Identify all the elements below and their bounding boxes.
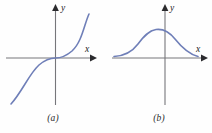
figure-panel-b: y x (b) xyxy=(106,0,212,133)
x-axis-label-b: x xyxy=(196,45,200,55)
graph-b-canvas xyxy=(106,0,212,112)
graph-a-canvas xyxy=(0,0,106,112)
x-axis-arrowhead-a xyxy=(90,55,97,62)
x-axis-arrowhead-b xyxy=(201,55,208,62)
x-axis-label-a: x xyxy=(85,45,89,55)
y-axis-label-b: y xyxy=(170,4,174,14)
y-axis-arrowhead-b xyxy=(162,4,169,11)
panel-caption-b: (b) xyxy=(106,113,212,123)
curve-cubic xyxy=(11,14,89,104)
figure-root: y x (a) y x (b) xyxy=(0,0,212,133)
y-axis-arrowhead-a xyxy=(52,4,59,11)
curve-bell xyxy=(114,29,198,56)
panel-caption-a: (a) xyxy=(0,113,106,123)
y-axis-label-a: y xyxy=(61,4,65,14)
figure-panel-a: y x (a) xyxy=(0,0,106,133)
